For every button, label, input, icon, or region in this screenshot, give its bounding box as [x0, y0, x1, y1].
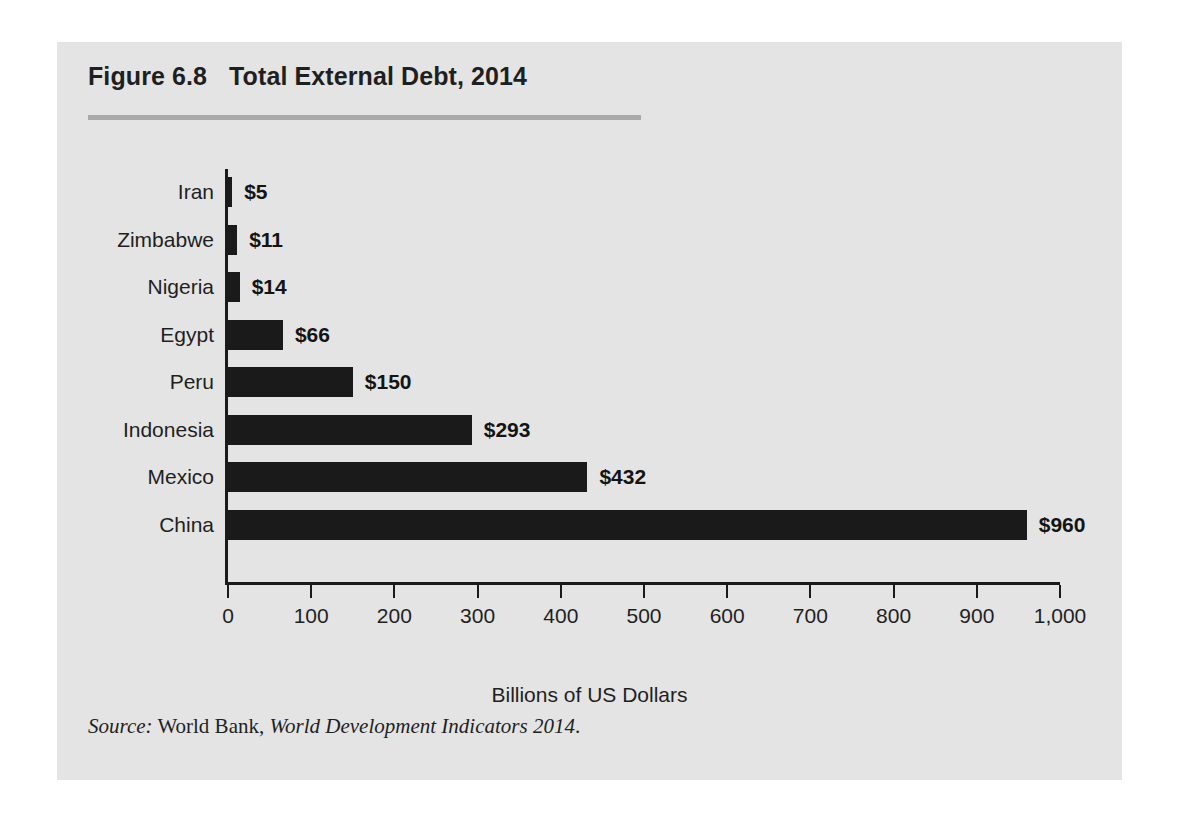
bar: [228, 272, 240, 302]
x-axis-tick-label: 400: [543, 604, 578, 628]
x-axis-tick: [976, 585, 978, 598]
category-label: Peru: [54, 370, 214, 394]
x-axis-tick: [227, 585, 229, 598]
category-label: Zimbabwe: [54, 228, 214, 252]
bar-value-label: $11: [249, 228, 283, 252]
x-axis-tick: [893, 585, 895, 598]
bar: [228, 367, 353, 397]
bar: [228, 415, 472, 445]
source-publisher: World Bank,: [157, 714, 264, 738]
x-axis-title: Billions of US Dollars: [57, 683, 1122, 707]
x-axis-tick-label: 800: [876, 604, 911, 628]
chart-plot-area: Iran$5Zimbabwe$11Nigeria$14Egypt$66Peru$…: [57, 42, 1122, 780]
bar-value-label: $960: [1039, 513, 1086, 537]
x-axis-tick-label: 0: [222, 604, 234, 628]
x-axis-tick: [310, 585, 312, 598]
x-axis-tick: [477, 585, 479, 598]
category-label: Mexico: [54, 465, 214, 489]
x-axis-tick-label: 100: [294, 604, 329, 628]
category-label: Iran: [54, 180, 214, 204]
source-period: .: [575, 714, 580, 738]
x-axis-tick: [1059, 585, 1061, 598]
figure-panel: Figure 6.8Total External Debt, 2014 Iran…: [57, 42, 1122, 780]
bar-value-label: $432: [599, 465, 646, 489]
bar: [228, 462, 587, 492]
x-axis-tick-label: 900: [959, 604, 994, 628]
bar-value-label: $66: [295, 323, 330, 347]
bar: [228, 510, 1027, 540]
x-axis-tick-label: 600: [710, 604, 745, 628]
bar-value-label: $5: [244, 180, 267, 204]
bar-value-label: $14: [252, 275, 287, 299]
x-axis-tick: [560, 585, 562, 598]
x-axis-tick-label: 200: [377, 604, 412, 628]
bar-value-label: $293: [484, 418, 531, 442]
x-axis-tick: [393, 585, 395, 598]
x-axis-tick: [809, 585, 811, 598]
bar: [228, 320, 283, 350]
x-axis-tick-label: 1,000: [1034, 604, 1087, 628]
category-label: Nigeria: [54, 275, 214, 299]
category-label: Egypt: [54, 323, 214, 347]
category-label: China: [54, 513, 214, 537]
bar-value-label: $150: [365, 370, 412, 394]
source-work-title: World Development Indicators 2014: [269, 714, 574, 738]
bar: [228, 225, 237, 255]
x-axis-tick: [726, 585, 728, 598]
category-label: Indonesia: [54, 418, 214, 442]
source-note: Source: World Bank, World Development In…: [88, 714, 580, 739]
x-axis-tick-label: 700: [793, 604, 828, 628]
bar: [228, 177, 232, 207]
x-axis-tick-label: 300: [460, 604, 495, 628]
source-label: Source:: [88, 714, 153, 738]
x-axis-tick-label: 500: [626, 604, 661, 628]
x-axis-tick: [643, 585, 645, 598]
